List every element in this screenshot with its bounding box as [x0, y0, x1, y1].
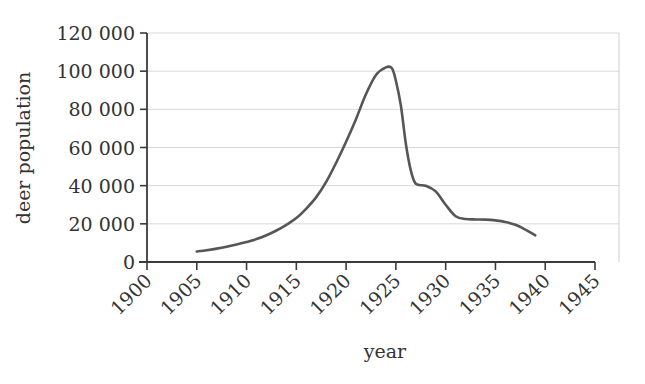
x-axis-title: year [363, 340, 407, 362]
y-tick-label: 120 000 [56, 22, 135, 44]
x-tick-label: 1905 [156, 269, 206, 319]
gridlines [147, 33, 619, 224]
y-tick-label: 80 000 [69, 98, 135, 120]
x-axis-ticks [147, 262, 595, 270]
y-axis-title: deer population [12, 72, 34, 225]
y-axis-tick-labels: 020 00040 00060 00080 000100 000120 000 [56, 22, 135, 273]
x-tick-label: 1910 [206, 269, 256, 319]
x-tick-label: 1935 [455, 269, 505, 319]
y-tick-label: 0 [123, 251, 135, 273]
y-tick-label: 20 000 [69, 213, 135, 235]
y-tick-label: 40 000 [69, 175, 135, 197]
x-tick-label: 1930 [405, 269, 455, 319]
y-axis-ticks [140, 33, 147, 262]
x-tick-label: 1925 [355, 269, 405, 319]
deer-population-line-chart: 020 00040 00060 00080 000100 000120 000 … [0, 0, 645, 384]
x-axis-tick-labels: 1900190519101915192019251930193519401945 [106, 269, 604, 319]
x-tick-label: 1915 [255, 269, 305, 319]
x-tick-label: 1900 [106, 269, 156, 319]
x-tick-label: 1920 [305, 269, 355, 319]
x-tick-label: 1945 [554, 269, 604, 319]
chart-page: 020 00040 00060 00080 000100 000120 000 … [0, 0, 645, 384]
x-tick-label: 1940 [504, 269, 554, 319]
y-tick-label: 100 000 [56, 60, 135, 82]
y-tick-label: 60 000 [69, 137, 135, 159]
